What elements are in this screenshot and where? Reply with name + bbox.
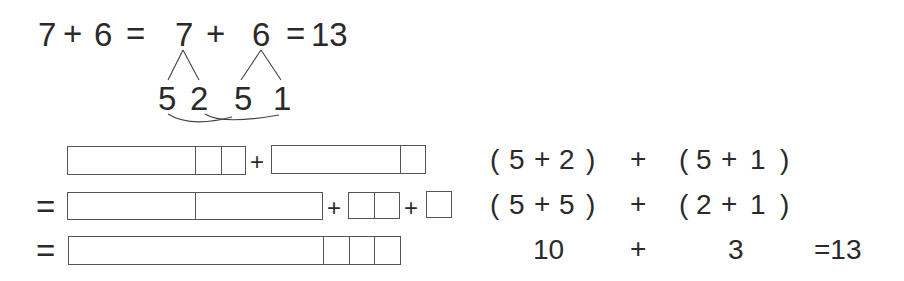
bar-plus-sign: + — [404, 196, 418, 220]
bar-six — [271, 145, 426, 174]
bar-plus-sign: + — [327, 196, 341, 220]
expr-plus: + — [630, 145, 646, 173]
bar-seven — [67, 146, 246, 175]
sum-ten: 10 — [533, 236, 564, 264]
split-six: 6 — [252, 18, 270, 51]
top-plus-sign: + — [63, 17, 82, 50]
top-addend-a: 7 — [38, 18, 56, 51]
bar-one — [426, 191, 452, 218]
expr-plus: + — [721, 145, 737, 173]
expr-plus: + — [534, 145, 550, 173]
paren-close: ) — [586, 191, 595, 219]
seven-part-2: 2 — [190, 82, 208, 115]
bar-two — [348, 192, 400, 219]
expr-term: 1 — [750, 191, 766, 219]
bar-ten — [67, 192, 323, 220]
top-result: 13 — [311, 18, 348, 51]
final-result: =13 — [814, 236, 862, 264]
split-seven: 7 — [175, 18, 193, 51]
paren-open: ( — [490, 146, 499, 174]
six-part-5: 5 — [234, 82, 252, 115]
sum-three: 3 — [728, 236, 744, 264]
expr-term: 2 — [559, 146, 575, 174]
top-addend-b: 6 — [94, 18, 112, 51]
expr-plus: + — [630, 235, 646, 263]
bar-plus-sign: + — [250, 150, 264, 174]
expr-plus: + — [630, 190, 646, 218]
bar-thirteen — [68, 236, 401, 265]
paren-close: ) — [586, 146, 595, 174]
paren-open: ( — [679, 191, 688, 219]
six-part-1: 1 — [273, 82, 291, 115]
expr-term: 5 — [509, 146, 525, 174]
row2-equals-sign: = — [36, 190, 55, 223]
seven-part-5: 5 — [158, 82, 176, 115]
expr-term: 1 — [750, 146, 766, 174]
expr-term: 5 — [509, 191, 525, 219]
expr-plus: + — [721, 190, 737, 218]
paren-open: ( — [679, 146, 688, 174]
paren-close: ) — [780, 146, 789, 174]
paren-open: ( — [490, 191, 499, 219]
result-equals-sign: = — [286, 17, 305, 50]
expr-term: 2 — [696, 191, 712, 219]
paren-close: ) — [780, 191, 789, 219]
row3-equals-sign: = — [36, 234, 55, 267]
expr-term: 5 — [696, 146, 712, 174]
expr-plus: + — [534, 190, 550, 218]
expr-term: 5 — [559, 191, 575, 219]
top-equals-sign: = — [126, 17, 145, 50]
middle-plus-sign: + — [206, 17, 225, 50]
